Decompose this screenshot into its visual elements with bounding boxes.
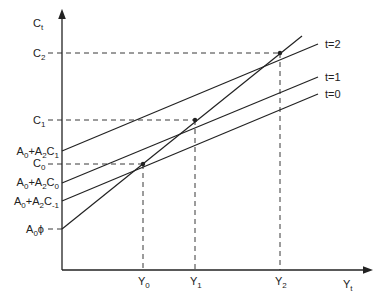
y-tick-c1: C1 [33, 114, 46, 129]
line-label-t2: t=2 [325, 38, 341, 50]
point-y2-c2 [278, 51, 282, 55]
x-tick-y0: Y0 [138, 275, 150, 290]
y-axis-label: Ct [33, 17, 44, 32]
x-axis-label: Yt [343, 278, 353, 293]
intercept-a0-a2c0: A0+A2C0 [17, 176, 60, 191]
forty-five-degree-line [62, 36, 302, 229]
x-tick-y2: Y2 [275, 275, 287, 290]
x-tick-y1: Y1 [190, 275, 202, 290]
guide-lines [48, 53, 280, 270]
line-label-t0: t=0 [325, 88, 341, 100]
consumption-diagram: Ct Yt t=2 t=1 t=0 C2 C1 C0 A0+A2C1 A0+A2… [0, 0, 374, 297]
y-tick-c2: C2 [33, 47, 46, 62]
point-y0-c0 [141, 162, 145, 166]
intercept-a0-phi: A0ϕ [26, 223, 44, 238]
intercept-a0-a2c-1: A0+A2C-1 [14, 195, 60, 210]
line-label-t1: t=1 [325, 71, 341, 83]
point-y1-c1 [193, 118, 197, 122]
